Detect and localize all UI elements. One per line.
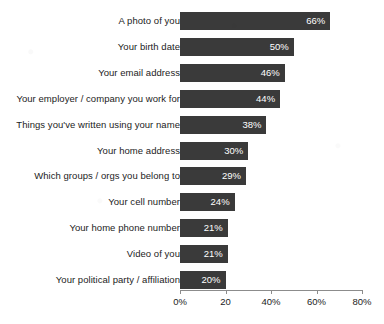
bar-value-label: 44% (256, 90, 275, 108)
bar-value-label: 29% (222, 167, 241, 185)
bar: 21% (180, 219, 228, 237)
bar: 29% (180, 167, 246, 185)
bar-row: Things you've written using your name38% (0, 116, 384, 134)
category-label: A photo of you (119, 12, 180, 30)
x-axis-tick (317, 290, 318, 294)
bar-row: Video of you21% (0, 245, 384, 263)
category-label: Your email address (98, 64, 180, 82)
x-axis-tick (226, 290, 227, 294)
bar-value-label: 24% (211, 193, 230, 211)
bar: 20% (180, 271, 226, 289)
bar-row: Which groups / orgs you belong to29% (0, 167, 384, 185)
bar: 24% (180, 193, 235, 211)
bar-row: Your birth date50% (0, 38, 384, 56)
x-axis-tick-label: 0% (173, 296, 187, 307)
bar-value-label: 38% (242, 116, 261, 134)
x-axis-tick (271, 290, 272, 294)
x-axis-tick-label: 20 (220, 296, 231, 307)
bar: 44% (180, 90, 280, 108)
bar: 38% (180, 116, 266, 134)
bar-value-label: 50% (270, 38, 289, 56)
category-label: Your employer / company you work for (16, 90, 180, 108)
bar: 46% (180, 64, 285, 82)
bar-row: Your home address30% (0, 142, 384, 160)
bar-row: Your employer / company you work for44% (0, 90, 384, 108)
bar: 50% (180, 38, 294, 56)
category-label: Which groups / orgs you belong to (34, 167, 180, 185)
category-label: Your home phone number (69, 219, 180, 237)
x-axis-tick-label: 40% (261, 296, 280, 307)
bar-value-label: 30% (224, 142, 243, 160)
bar-value-label: 46% (261, 64, 280, 82)
bar-row: Your political party / affiliation20% (0, 271, 384, 289)
x-axis-tick (180, 290, 181, 294)
category-label: Your political party / affiliation (56, 271, 180, 289)
category-label: Your birth date (118, 38, 180, 56)
bar-value-label: 66% (306, 12, 325, 30)
bar-value-label: 20% (201, 271, 220, 289)
category-label: Video of you (127, 245, 180, 263)
bar-row: Your cell number24% (0, 193, 384, 211)
x-axis-tick-label: 60% (307, 296, 326, 307)
bar: 66% (180, 12, 330, 30)
category-label: Your home address (97, 142, 180, 160)
bar-value-label: 21% (204, 245, 223, 263)
bar-row: A photo of you66% (0, 12, 384, 30)
x-axis-tick (362, 290, 363, 294)
bar: 30% (180, 142, 248, 160)
bar-chart: A photo of you66%Your birth date50%Your … (0, 0, 384, 324)
bar-value-label: 21% (204, 219, 223, 237)
bar-row: Your home phone number21% (0, 219, 384, 237)
bar-row: Your email address46% (0, 64, 384, 82)
category-label: Your cell number (108, 193, 180, 211)
category-label: Things you've written using your name (16, 116, 180, 134)
x-axis-tick-label: 80% (352, 296, 371, 307)
bar: 21% (180, 245, 228, 263)
